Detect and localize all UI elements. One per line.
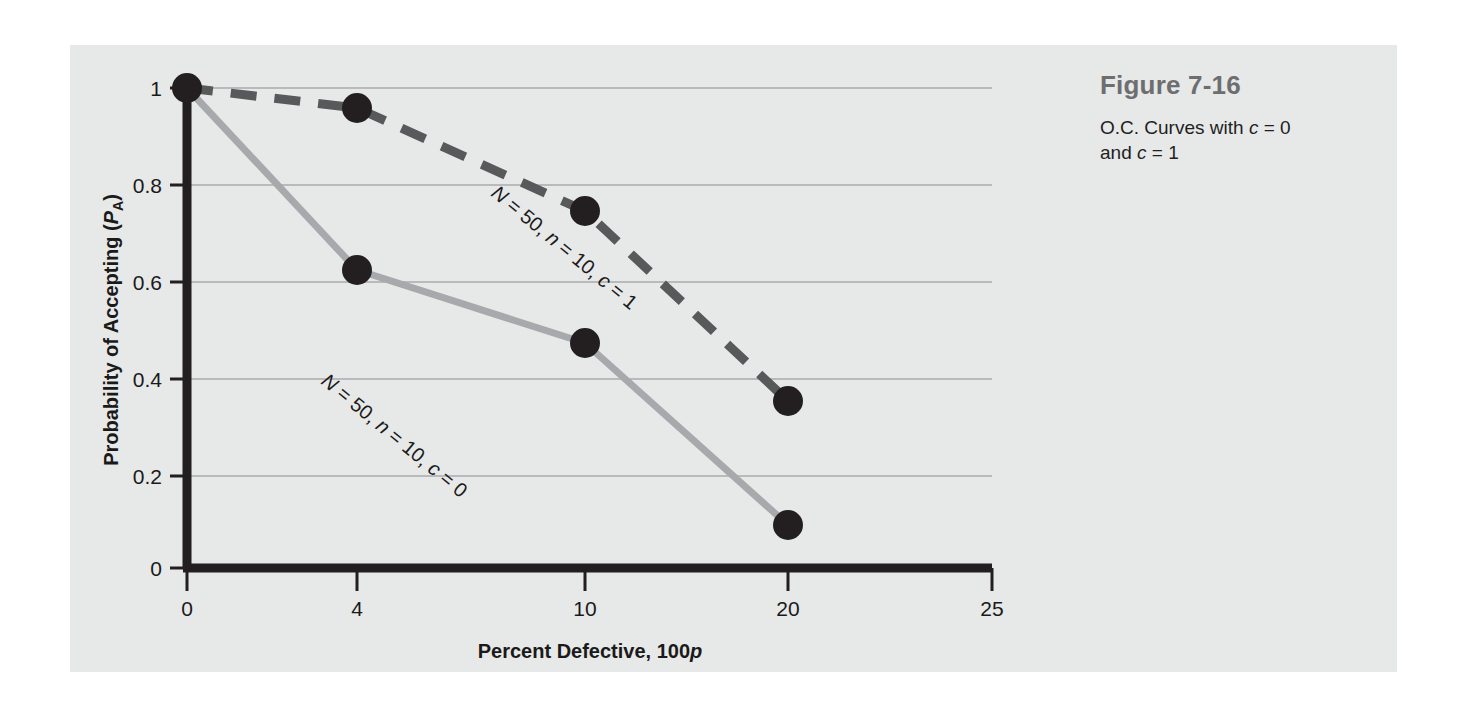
series-line-c0 <box>187 88 788 525</box>
caption-line2-prefix: and <box>1100 142 1137 163</box>
caption-line1-prefix: O.C. Curves with <box>1100 117 1249 138</box>
x-tick-label-4: 4 <box>351 597 363 620</box>
caption-line1-value: = 0 <box>1258 117 1290 138</box>
figure-caption-block: Figure 7-16 O.C. Curves with c = 0 and c… <box>1100 70 1390 165</box>
marker-point <box>773 386 803 416</box>
y-tick-label-1: 1 <box>150 77 162 100</box>
marker-point <box>342 255 372 285</box>
chart-plot-area: 1 0.8 0.6 0.4 0.2 0 0 4 10 20 2 <box>70 45 1090 672</box>
marker-point <box>342 93 372 123</box>
figure-panel: 1 0.8 0.6 0.4 0.2 0 0 4 10 20 2 <box>70 45 1397 672</box>
y-axis-title-var: P <box>100 210 122 224</box>
x-axis-title-var: p <box>689 640 702 662</box>
marker-point <box>570 196 600 226</box>
y-axis-title-sub: A <box>110 201 126 211</box>
x-axis-tick-labels: 0 4 10 20 25 <box>181 597 1004 620</box>
x-tick-label-20: 20 <box>776 597 799 620</box>
y-axis-tick-labels: 1 0.8 0.6 0.4 0.2 0 <box>133 77 163 580</box>
series-line-c1 <box>187 88 788 401</box>
figure-number: Figure 7-16 <box>1100 70 1390 101</box>
x-tick-label-0: 0 <box>181 597 193 620</box>
y-axis-title: Probability of Accepting (PA) <box>100 194 126 466</box>
marker-point <box>172 73 202 103</box>
x-axis-title-prefix: Percent Defective, 100 <box>478 640 690 662</box>
y-tick-label-0-2: 0.2 <box>133 465 162 488</box>
caption-line1-var: c <box>1249 117 1259 138</box>
y-tick-label-0-6: 0.6 <box>133 271 162 294</box>
y-axis-title-prefix: Probability of Accepting ( <box>100 224 122 466</box>
y-tick-label-0-8: 0.8 <box>133 174 162 197</box>
series-annotation-c0: N = 50, n = 10, c = 0 <box>317 369 471 502</box>
y-tick-label-0: 0 <box>150 557 162 580</box>
x-axis-title: Percent Defective, 100p <box>478 640 703 662</box>
caption-line2-value: = 1 <box>1146 142 1178 163</box>
oc-curve-chart: 1 0.8 0.6 0.4 0.2 0 0 4 10 20 2 <box>70 45 1090 672</box>
data-markers <box>172 73 803 540</box>
axes <box>183 83 992 568</box>
figure-caption: O.C. Curves with c = 0 and c = 1 <box>1100 115 1390 165</box>
marker-point <box>773 510 803 540</box>
x-tick-label-10: 10 <box>573 597 596 620</box>
y-tick-label-0-4: 0.4 <box>133 368 163 391</box>
x-tick-label-25: 25 <box>980 597 1003 620</box>
y-axis-title-suffix: ) <box>100 194 122 201</box>
marker-point <box>570 328 600 358</box>
